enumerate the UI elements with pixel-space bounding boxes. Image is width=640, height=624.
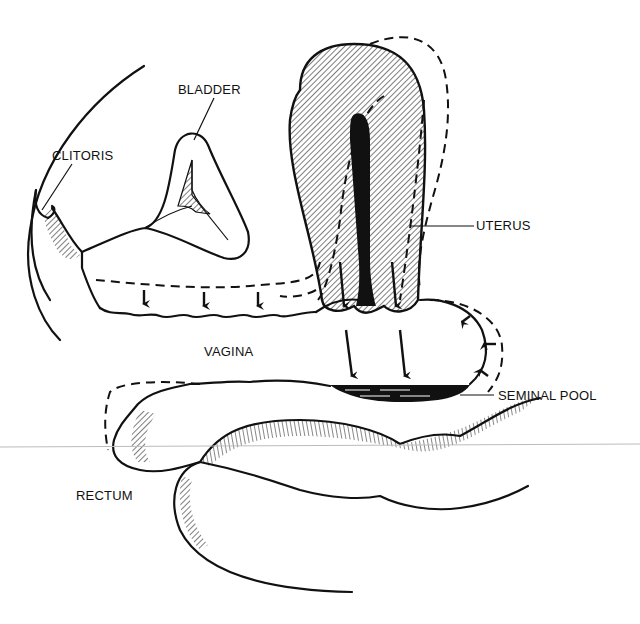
- posterior-fornix: [430, 300, 502, 392]
- anatomy-diagram: BLADDER CLITORIS UTERUS VAGINA SEMINAL P…: [0, 0, 640, 624]
- label-seminal-pool: SEMINAL POOL: [498, 388, 597, 403]
- clitoris-shape: [36, 190, 83, 259]
- uterus-shape: [280, 37, 448, 312]
- label-rectum: RECTUM: [76, 488, 133, 503]
- vagina-arrows: [144, 290, 258, 306]
- label-bladder: BLADDER: [178, 82, 241, 97]
- label-uterus: UTERUS: [476, 218, 531, 233]
- pubic-outline: [28, 66, 144, 340]
- label-vagina: VAGINA: [204, 344, 253, 359]
- vagina-shape: [82, 252, 486, 384]
- fornix-arrows: [346, 330, 405, 376]
- seminal-pool: [330, 385, 494, 402]
- rectum-shape: [174, 396, 540, 592]
- label-clitoris: CLITORIS: [52, 148, 113, 163]
- scan-line: [0, 444, 640, 447]
